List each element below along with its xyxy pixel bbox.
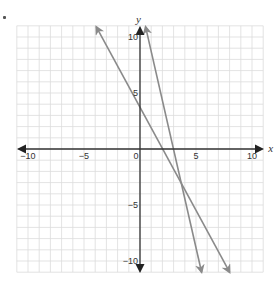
axes: xy	[19, 13, 273, 271]
x-tick-label: −5	[79, 151, 89, 161]
x-tick-label: 5	[193, 151, 198, 161]
x-axis-label: x	[267, 142, 273, 154]
y-tick-label: −5	[128, 200, 138, 210]
coordinate-plane: xy −10−50510105−5−10	[0, 0, 279, 292]
y-tick-label: −10	[123, 256, 138, 266]
y-tick-label: 5	[133, 88, 138, 98]
x-tick-label: −10	[20, 151, 35, 161]
y-axis-label: y	[135, 13, 141, 25]
x-tick-label: 10	[247, 151, 257, 161]
x-tick-label: 0	[133, 151, 138, 161]
y-tick-label: 10	[128, 32, 138, 42]
